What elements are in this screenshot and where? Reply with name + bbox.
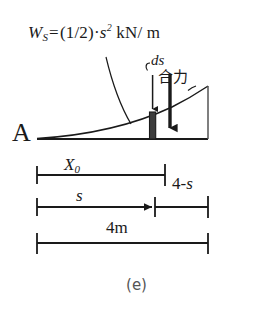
parabolic-load-curve (37, 86, 208, 139)
load-diagram-figure: WS=(1/2)·s2 kN/ m ds 合力 A X0 s 4-s 4m (e… (0, 0, 273, 320)
diagram-vector-layer (0, 0, 273, 320)
formula-leader-line (106, 57, 131, 124)
resultant-leader-line (188, 86, 196, 91)
differential-strip-ds (150, 112, 156, 139)
ds-leader-line (146, 63, 150, 71)
